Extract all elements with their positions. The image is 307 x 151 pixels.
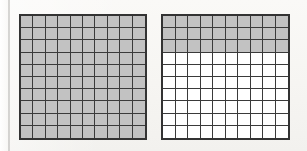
grid-cell xyxy=(238,114,251,126)
grid-cell xyxy=(226,101,239,113)
page-gutter-shade xyxy=(0,0,8,151)
grid-cell xyxy=(108,28,120,40)
grid-cell xyxy=(251,16,264,28)
grid-cell xyxy=(58,65,70,77)
grid-cell xyxy=(213,28,226,40)
grid-cell xyxy=(46,65,58,77)
grid-cell xyxy=(21,16,33,28)
grid-cell xyxy=(95,53,107,65)
grid-cell xyxy=(176,77,189,89)
grid-cell xyxy=(133,53,145,65)
grid-cell xyxy=(71,40,83,52)
grid-cell xyxy=(108,77,120,89)
grid-cell xyxy=(120,101,132,113)
grid-cell xyxy=(276,77,289,89)
grid-cell xyxy=(226,77,239,89)
grid-cell xyxy=(176,65,189,77)
grid-cell xyxy=(201,53,214,65)
grid-cell xyxy=(263,114,276,126)
grid-cell xyxy=(238,65,251,77)
grid-cell xyxy=(251,65,264,77)
grid-cell xyxy=(163,28,176,40)
grid-cell xyxy=(95,77,107,89)
grid-cell xyxy=(176,16,189,28)
grid-cell xyxy=(201,16,214,28)
grid-cell xyxy=(213,77,226,89)
grid-cell xyxy=(33,77,45,89)
grid-cell xyxy=(188,16,201,28)
grid-cell xyxy=(133,77,145,89)
grid-cell xyxy=(46,53,58,65)
grid-cell xyxy=(58,89,70,101)
grid-cell xyxy=(251,28,264,40)
grid-cell xyxy=(58,114,70,126)
grid-cell xyxy=(226,53,239,65)
grid-cell xyxy=(263,28,276,40)
grid-cell xyxy=(83,126,95,138)
grid-cell xyxy=(46,40,58,52)
grid-cell xyxy=(33,65,45,77)
grid-cell xyxy=(21,126,33,138)
grid-cell xyxy=(188,40,201,52)
grid-cell xyxy=(251,53,264,65)
grid-cell xyxy=(108,101,120,113)
figure-canvas xyxy=(0,0,307,151)
grid-cell xyxy=(120,77,132,89)
grid-cell xyxy=(226,28,239,40)
grid-cell xyxy=(238,53,251,65)
grid-cell xyxy=(71,77,83,89)
grid-cell xyxy=(226,40,239,52)
grid-cell xyxy=(188,65,201,77)
grid-cell xyxy=(71,101,83,113)
grid-cell xyxy=(95,126,107,138)
grid-cell xyxy=(213,53,226,65)
grid-cell xyxy=(276,40,289,52)
grid-cell xyxy=(83,114,95,126)
grid-cell xyxy=(71,53,83,65)
grid-cell xyxy=(213,65,226,77)
grid-cell xyxy=(163,89,176,101)
grid-cell xyxy=(33,53,45,65)
grid-cell xyxy=(263,53,276,65)
grid-cell xyxy=(71,89,83,101)
grid-cell xyxy=(251,77,264,89)
grid-cell xyxy=(163,53,176,65)
grid-cell xyxy=(238,40,251,52)
grid-cell xyxy=(176,53,189,65)
grid-cell xyxy=(163,65,176,77)
grid-cell xyxy=(21,114,33,126)
hundredths-grid-right xyxy=(161,14,290,140)
grid-cell xyxy=(276,101,289,113)
grid-cell xyxy=(238,16,251,28)
grid-cell xyxy=(83,77,95,89)
grid-cell xyxy=(133,16,145,28)
grid-cell xyxy=(133,114,145,126)
grid-cell xyxy=(71,16,83,28)
grid-cell xyxy=(46,28,58,40)
grid-cell xyxy=(108,53,120,65)
grid-cell xyxy=(213,114,226,126)
grid-cell xyxy=(71,114,83,126)
grid-cell xyxy=(251,126,264,138)
grid-cell xyxy=(95,101,107,113)
grid-cell xyxy=(238,101,251,113)
grid-cell xyxy=(133,89,145,101)
grid-cell xyxy=(201,40,214,52)
grid-cell xyxy=(71,126,83,138)
grid-cell xyxy=(201,89,214,101)
grid-cell xyxy=(201,28,214,40)
page-gutter-line xyxy=(8,0,10,151)
grid-cell xyxy=(188,126,201,138)
grid-cell xyxy=(95,114,107,126)
grid-cell xyxy=(33,40,45,52)
grid-cell xyxy=(83,65,95,77)
grid-cell xyxy=(263,89,276,101)
grid-cell xyxy=(21,53,33,65)
grid-cell xyxy=(188,53,201,65)
grid-cell xyxy=(58,77,70,89)
grid-cell xyxy=(188,89,201,101)
grid-cell xyxy=(108,89,120,101)
grid-cell xyxy=(21,89,33,101)
grid-cell xyxy=(108,65,120,77)
grid-cell xyxy=(201,65,214,77)
